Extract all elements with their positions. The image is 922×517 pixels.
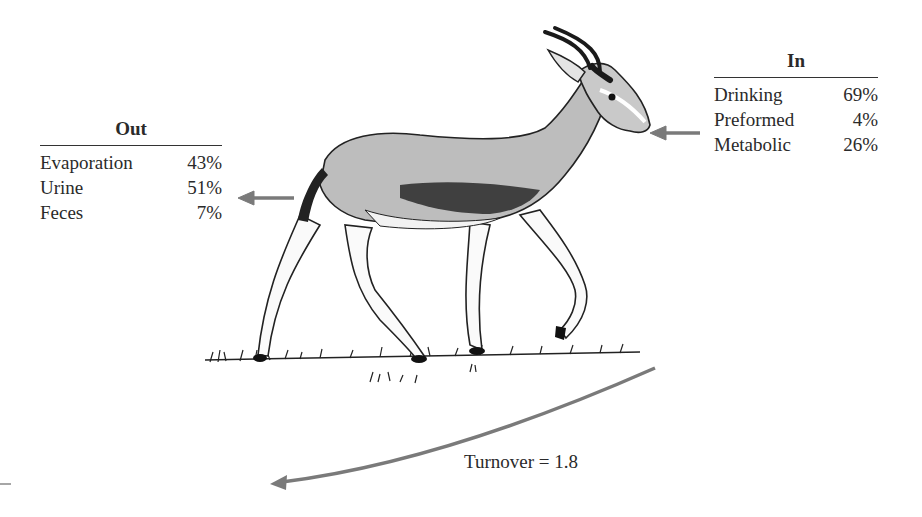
turnover-label: Turnover = 1.8 [464,451,578,473]
in-table: In Drinking 69% Preformed 4% Metabolic 2… [714,48,878,157]
gazelle-tail [298,168,328,222]
out-row-value: 7% [197,200,222,225]
in-row-drinking: Drinking 69% [714,82,878,107]
out-row-feces: Feces 7% [40,200,222,225]
out-table-rule [40,145,222,146]
gazelle-legs [258,210,587,357]
in-table-title: In [714,48,878,73]
out-table-title: Out [40,116,222,141]
arrow-out [238,191,294,205]
in-row-label: Drinking [714,82,783,107]
in-row-label: Metabolic [714,132,791,157]
out-row-value: 51% [187,175,222,200]
in-row-preformed: Preformed 4% [714,107,878,132]
arrow-turnover [270,368,655,490]
out-row-label: Evaporation [40,150,133,175]
in-table-rule [714,77,878,78]
gazelle-eye [609,94,616,101]
in-row-value: 69% [843,82,878,107]
in-row-value: 4% [853,107,878,132]
in-row-metabolic: Metabolic 26% [714,132,878,157]
out-row-urine: Urine 51% [40,175,222,200]
out-row-evaporation: Evaporation 43% [40,150,222,175]
out-row-label: Feces [40,200,83,225]
grass-ground [205,344,640,383]
out-table: Out Evaporation 43% Urine 51% Feces 7% [40,116,222,225]
out-row-value: 43% [187,150,222,175]
gazelle-ear [548,50,585,82]
arrow-in [650,126,700,140]
in-row-label: Preformed [714,107,794,132]
out-row-label: Urine [40,175,83,200]
in-row-value: 26% [843,132,878,157]
